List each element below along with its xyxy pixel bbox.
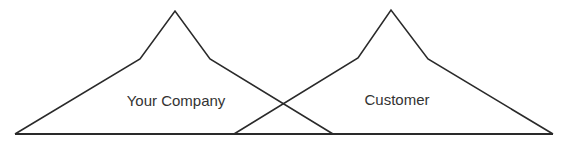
customer-label: Customer [364, 91, 429, 108]
your-company-shape [15, 11, 333, 134]
your-company-label: Your Company [127, 92, 226, 109]
customer-shape [234, 10, 553, 134]
overlap-diagram: Your Company Customer [0, 0, 571, 146]
